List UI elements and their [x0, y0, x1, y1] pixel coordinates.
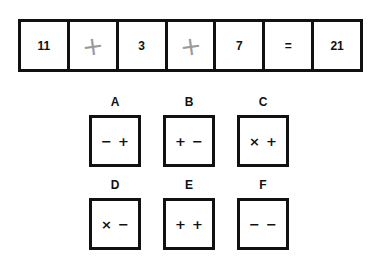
multiply-icon: × — [249, 134, 261, 149]
number-7: 7 — [236, 39, 243, 53]
choice-label: C — [237, 95, 289, 109]
choice-c[interactable]: C × + — [237, 95, 289, 167]
equation-cell-number: 3 — [119, 22, 168, 69]
plus-icon: + — [118, 134, 130, 149]
multiply-icon: × — [101, 217, 113, 232]
choice-label: A — [89, 95, 141, 109]
plus-icon: + — [175, 217, 187, 232]
choice-label: B — [163, 95, 215, 109]
choice-d[interactable]: D × − — [89, 178, 141, 250]
choice-label: D — [89, 178, 141, 192]
handwritten-plus-icon: + — [80, 31, 105, 60]
plus-icon: + — [192, 217, 204, 232]
equation-cell-number: 7 — [216, 22, 265, 69]
equation-cell-number: 11 — [21, 22, 70, 69]
equation-cell-operator[interactable]: + — [70, 22, 119, 69]
handwritten-plus-icon: + — [178, 31, 203, 60]
choice-f[interactable]: F − − — [237, 178, 289, 250]
choice-b[interactable]: B + − — [163, 95, 215, 167]
choice-box[interactable]: − + — [89, 115, 141, 167]
equation-cell-equals: = — [265, 22, 314, 69]
choice-box[interactable]: × − — [89, 198, 141, 250]
choice-e[interactable]: E + + — [163, 178, 215, 250]
minus-icon: − — [266, 217, 278, 232]
equals-sign: = — [285, 39, 292, 53]
number-3: 3 — [138, 39, 145, 53]
minus-icon: − — [249, 217, 261, 232]
choice-label: F — [237, 178, 289, 192]
choice-box[interactable]: − − — [237, 198, 289, 250]
choice-box[interactable]: × + — [237, 115, 289, 167]
minus-icon: − — [192, 134, 204, 149]
equation-strip: 11 + 3 + 7 = 21 — [18, 19, 363, 72]
choice-label: E — [163, 178, 215, 192]
equation-cell-operator[interactable]: + — [168, 22, 217, 69]
equation-cell-result: 21 — [314, 22, 360, 69]
plus-icon: + — [266, 134, 278, 149]
choice-box[interactable]: + + — [163, 198, 215, 250]
number-21: 21 — [330, 39, 343, 53]
choice-a[interactable]: A − + — [89, 95, 141, 167]
minus-icon: − — [118, 217, 130, 232]
number-11: 11 — [38, 39, 51, 53]
minus-icon: − — [101, 134, 113, 149]
plus-icon: + — [175, 134, 187, 149]
choice-box[interactable]: + − — [163, 115, 215, 167]
